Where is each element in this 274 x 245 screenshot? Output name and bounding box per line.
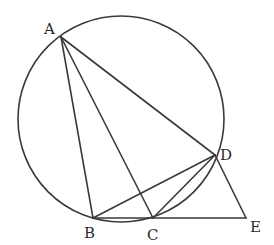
segment-ad xyxy=(61,37,215,155)
label-b: B xyxy=(84,224,95,242)
segment-ab xyxy=(61,37,93,218)
segment-ac xyxy=(61,37,153,218)
circle xyxy=(18,16,224,222)
label-a: A xyxy=(43,20,55,38)
label-c: C xyxy=(147,226,158,244)
segment-bd xyxy=(93,155,215,218)
segment-de xyxy=(215,155,246,218)
label-d: D xyxy=(220,146,232,164)
label-e: E xyxy=(250,218,261,236)
geometry-diagram: A B C D E xyxy=(0,0,274,245)
segment-cd xyxy=(153,155,215,218)
